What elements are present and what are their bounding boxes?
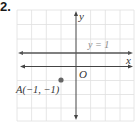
point-a xyxy=(58,77,63,82)
y-axis xyxy=(74,11,78,120)
arrow-down-icon xyxy=(74,115,78,120)
coordinate-graph: y x O y = 1 A(−1, −1) xyxy=(0,0,139,124)
line-equation-label: y = 1 xyxy=(87,39,109,50)
point-a-label: A(−1, −1) xyxy=(15,84,60,96)
x-axis-label: x xyxy=(125,54,131,66)
y-axis-label: y xyxy=(78,10,84,22)
arrow-left-icon xyxy=(18,51,23,55)
arrow-up-icon xyxy=(74,11,78,16)
origin-label: O xyxy=(79,68,87,80)
arrow-left-icon xyxy=(20,65,25,69)
